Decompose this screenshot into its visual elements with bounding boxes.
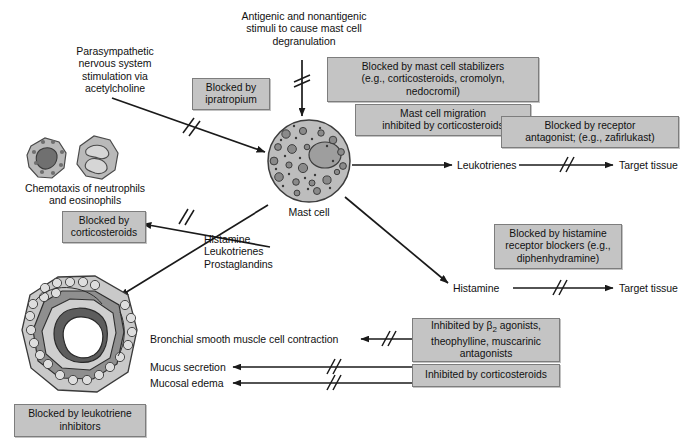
label-leukotrienes: Leukotrienes [457, 159, 527, 171]
eosinophil-cell-icon [77, 136, 118, 179]
box-histamine-receptor-blockers[interactable]: Blocked by histamine receptor blockers (… [494, 224, 622, 269]
box-mast-cell-stabilizers[interactable]: Blocked by mast cell stabilizers (e.g., … [327, 57, 539, 102]
box-leukotriene-inhibitors[interactable]: Blocked by leukotriene inhibitors [14, 404, 146, 437]
box-blocked-by-ipratropium[interactable]: Blocked by ipratropium [192, 78, 270, 110]
label-mediators: Histamine Leukotrienes Prostaglandins [204, 233, 324, 270]
label-chemotaxis: Chemotaxis of neutrophils and eosinophil… [10, 182, 160, 207]
label-bronchial-contraction: Bronchial smooth muscle cell contraction [150, 333, 365, 345]
mast-cell-icon [268, 120, 350, 202]
neutrophil-cell-icon [27, 138, 66, 178]
box-beta2-agonists-text: Inhibited by β2 agonists,theophylline, m… [431, 320, 541, 361]
label-target-tissue-histamine: Target tissue [619, 282, 693, 294]
bronchiole-cross-section-icon [22, 276, 137, 392]
label-target-tissue-leukotriene: Target tissue [619, 159, 693, 171]
box-beta2-agonists[interactable]: Inhibited by β2 agonists,theophylline, m… [412, 318, 560, 362]
box-inhibited-by-corticosteroids[interactable]: Inhibited by corticosteroids [412, 364, 560, 387]
diagram-canvas: Antigenic and nonantigenic stimuli to ca… [0, 0, 698, 448]
label-histamine: Histamine [453, 282, 517, 294]
box-corticosteroids-chemotaxis[interactable]: Blocked by corticosteroids [62, 211, 146, 243]
label-mucus-secretion: Mucus secretion [150, 361, 260, 373]
box-receptor-antagonist[interactable]: Blocked by receptor antagonist; (e.g., z… [501, 116, 679, 148]
label-mucosal-edema: Mucosal edema [150, 377, 260, 389]
label-parasympathetic: Parasympathetic nervous system stimulati… [63, 45, 167, 95]
label-antigenic-stimuli: Antigenic and nonantigenic stimuli to ca… [224, 10, 384, 47]
label-mast-cell: Mast cell [277, 206, 341, 218]
